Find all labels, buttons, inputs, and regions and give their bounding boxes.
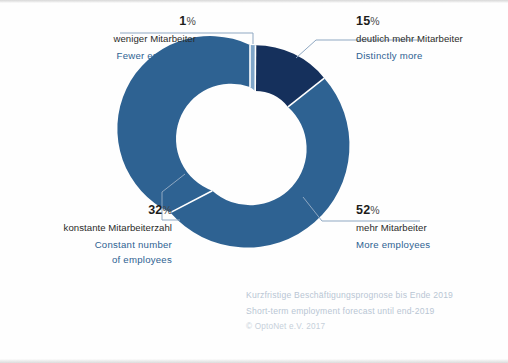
label-distinctly-more-value: 15	[356, 14, 370, 28]
label-constant-en: Constant number	[0, 237, 172, 252]
percent-symbol: %	[370, 204, 380, 216]
label-fewer: 1% weniger Mitarbeiter Fewer employees	[0, 14, 196, 63]
label-distinctly-more-en: Distinctly more	[356, 48, 508, 63]
label-fewer-en: Fewer employees	[0, 48, 196, 63]
label-more-value: 52	[356, 203, 370, 217]
percent-symbol: %	[370, 15, 380, 27]
percent-symbol: %	[186, 15, 196, 27]
label-constant-de: konstante Mitarbeiterzahl	[0, 221, 172, 235]
caption-title-de: Kurzfristige Beschäftigungsprognose bis …	[246, 288, 504, 304]
label-distinctly-more-de: deutlich mehr Mitarbeiter	[356, 32, 508, 46]
label-more: 52% mehr Mitarbeiter More employees	[356, 203, 508, 252]
label-constant-value: 32	[148, 203, 162, 217]
label-more-percent: 52%	[356, 203, 508, 217]
label-more-de: mehr Mitarbeiter	[356, 221, 508, 235]
label-constant-en-line2: of employees	[0, 252, 172, 267]
label-more-en: More employees	[356, 237, 508, 252]
chart-canvas: 1% weniger Mitarbeiter Fewer employees 1…	[0, 0, 508, 363]
percent-symbol: %	[162, 204, 172, 216]
caption-title-en: Short-term employment forecast until end…	[246, 304, 504, 320]
caption-block: Kurzfristige Beschäftigungsprognose bis …	[246, 288, 504, 335]
segment-more[interactable]	[170, 78, 349, 247]
label-distinctly-more: 15% deutlich mehr Mitarbeiter Distinctly…	[356, 14, 508, 63]
label-constant-percent: 32%	[0, 203, 172, 217]
label-constant: 32% konstante Mitarbeiterzahl Constant n…	[0, 203, 172, 267]
label-distinctly-more-percent: 15%	[356, 14, 508, 28]
caption-copyright: © OptoNet e.V. 2017	[246, 319, 504, 335]
label-fewer-percent: 1%	[0, 14, 196, 28]
label-fewer-de: weniger Mitarbeiter	[0, 32, 196, 46]
